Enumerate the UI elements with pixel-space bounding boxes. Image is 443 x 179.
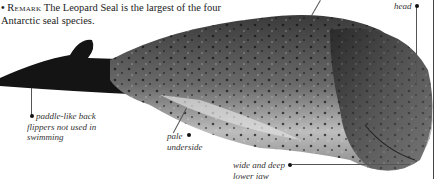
remark-keyword: Remark [7,2,41,13]
remark-text: • Remark The Leopard Seal is the largest… [1,2,221,27]
bullet-icon: • [1,2,5,13]
leader-line-head [416,6,417,84]
leader-line-jaw [292,164,410,165]
label-head: head [394,1,412,12]
leader-dot-head [415,4,419,8]
leader-dot-jaw [288,163,292,167]
leader-dot-flippers [30,114,34,118]
page-border-line [433,0,434,179]
label-flippers: paddle-like back flippers not used in sw… [27,111,105,143]
leader-dot-underside [187,133,191,137]
